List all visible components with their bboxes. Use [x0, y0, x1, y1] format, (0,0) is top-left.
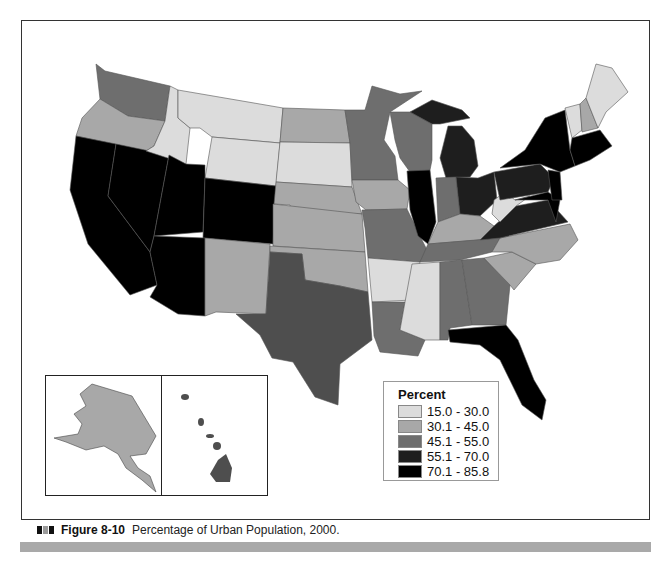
legend-swatch: [398, 420, 422, 433]
figure-caption-text: Percentage of Urban Population, 2000.: [132, 523, 339, 537]
state-southern-new-england: [570, 130, 612, 166]
state-wyoming: [205, 137, 280, 186]
legend-row: 15.0 - 30.0: [398, 404, 498, 418]
legend-label: 30.1 - 45.0: [427, 419, 489, 434]
legend-row: 70.1 - 85.8: [398, 464, 498, 478]
state-north-dakota: [280, 108, 350, 143]
legend-row: 45.1 - 55.0: [398, 434, 498, 448]
state-new-mexico: [205, 238, 270, 316]
island-molokai: [206, 434, 214, 438]
inset-alaska: [45, 375, 162, 496]
caption-square-icon: [43, 526, 48, 534]
state-colorado: [203, 178, 276, 244]
state-iowa: [352, 180, 410, 210]
island-kauai: [181, 394, 189, 400]
legend-row: 55.1 - 70.0: [398, 449, 498, 463]
legend: Percent 15.0 - 30.0 30.1 - 45.0 45.1 - 5…: [383, 381, 499, 481]
legend-label: 15.0 - 30.0: [427, 404, 489, 419]
state-south-dakota: [276, 142, 352, 187]
caption-square-icon: [37, 526, 42, 534]
figure-caption: Figure 8-10 Percentage of Urban Populati…: [37, 522, 340, 538]
state-montana: [178, 90, 283, 143]
state-michigan-lower: [440, 126, 478, 178]
caption-square-icon: [49, 526, 54, 534]
legend-swatch: [398, 405, 422, 418]
state-arizona: [150, 236, 205, 316]
island-maui: [213, 442, 221, 450]
state-wisconsin: [390, 112, 432, 172]
island-hawaii: [210, 454, 232, 482]
legend-swatch: [398, 465, 422, 478]
legend-swatch: [398, 435, 422, 448]
figure-number: Figure 8-10: [61, 523, 125, 537]
state-new-york: [500, 110, 575, 172]
caption-divider-bar: [20, 542, 651, 552]
state-alaska: [54, 384, 156, 492]
legend-label: 55.1 - 70.0: [427, 449, 489, 464]
legend-swatch: [398, 450, 422, 463]
legend-row: 30.1 - 45.0: [398, 419, 498, 433]
legend-label: 45.1 - 55.0: [427, 434, 489, 449]
legend-label: 70.1 - 85.8: [427, 464, 489, 479]
inset-hawaii: [161, 375, 268, 496]
state-ohio: [456, 172, 497, 216]
island-oahu: [198, 418, 204, 426]
legend-title: Percent: [398, 387, 498, 402]
